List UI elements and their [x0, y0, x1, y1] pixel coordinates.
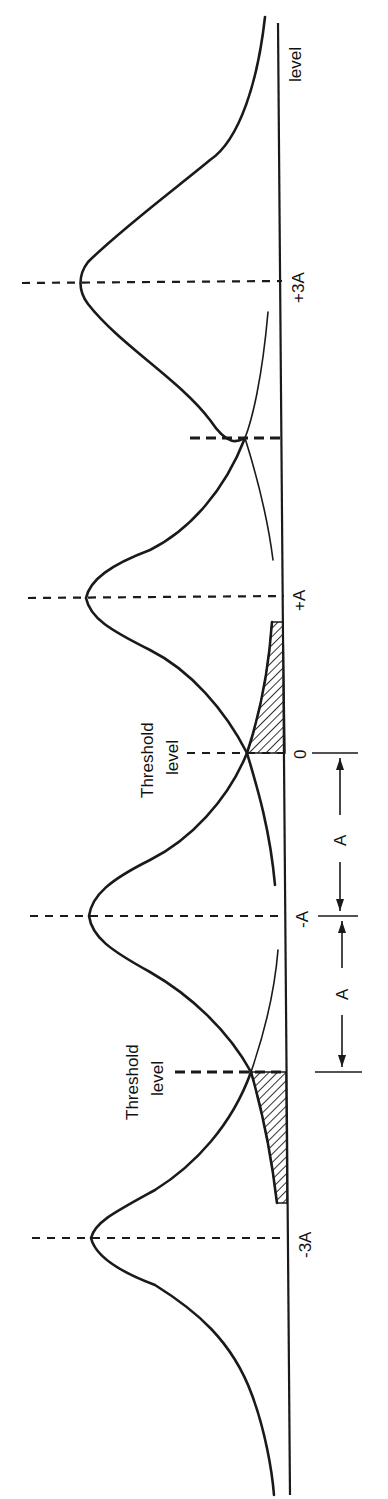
level-label-minus3A: -3A — [296, 1231, 315, 1258]
pam-noise-distribution-diagram: level +3A +A 0 -A -3A A A Threshold leve… — [0, 0, 388, 1499]
arrowhead-icon — [336, 758, 344, 770]
threshold-label-lower-line1: Threshold — [123, 1044, 142, 1120]
gaussian-curve-plus3A — [81, 17, 266, 441]
threshold-label-lower-line2: level — [148, 1061, 167, 1096]
dashed-marker-plus3A — [22, 281, 282, 283]
gaussian-curve-plusA — [86, 438, 247, 753]
baseline-axis — [278, 23, 290, 1495]
level-label-minusA: -A — [293, 910, 312, 928]
arrowhead-icon — [338, 921, 346, 933]
level-label-plus3A: +3A — [289, 272, 308, 303]
tail-plus3A-lower — [245, 312, 268, 438]
dimension-label-upper: A — [331, 834, 350, 846]
level-label-plusA: +A — [290, 589, 309, 611]
tail-plusA-upper — [245, 438, 273, 560]
gaussian-curve-minusA — [89, 753, 251, 1072]
error-region-lower — [251, 1072, 287, 1203]
threshold-label-upper-line2: level — [163, 740, 182, 775]
tail-minusA-upper — [247, 753, 275, 885]
threshold-label-upper-line1: Threshold — [138, 722, 157, 798]
tail-minusA-lower — [251, 950, 278, 1072]
error-region-upper — [247, 622, 285, 753]
dimension-label-lower: A — [333, 988, 352, 1000]
gaussian-curve-minus3A — [91, 1072, 274, 1495]
arrowhead-icon — [336, 899, 344, 911]
level-label-zero: 0 — [291, 750, 310, 759]
arrowhead-icon — [338, 1055, 346, 1067]
baseline-label: level — [286, 47, 305, 82]
dashed-marker-plusA — [28, 596, 284, 598]
